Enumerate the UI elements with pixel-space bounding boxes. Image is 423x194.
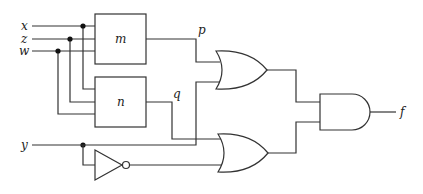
circuit-diagram: x z w y m n p q [0, 0, 423, 194]
wire-or2-out [268, 122, 320, 153]
input-label-w: w [19, 44, 30, 58]
wire-p [146, 39, 220, 62]
block-m-label: m [115, 32, 126, 46]
or-gate-bottom [218, 134, 268, 172]
wire-or1-out [267, 70, 320, 102]
input-wires-xzw [32, 26, 95, 114]
output-label-f: f [399, 105, 407, 119]
or-gate-top [216, 51, 267, 89]
input-label-y: y [20, 138, 28, 152]
signal-label-q: q [173, 87, 181, 101]
wire-q [146, 102, 221, 139]
signal-label-p: p [198, 23, 206, 37]
block-n: n [95, 77, 146, 127]
and-gate [320, 94, 370, 130]
block-m: m [95, 14, 146, 64]
wire-y-to-not [83, 145, 95, 165]
input-label-x: x [21, 19, 28, 33]
block-n-label: n [117, 95, 125, 109]
not-gate [95, 150, 130, 180]
